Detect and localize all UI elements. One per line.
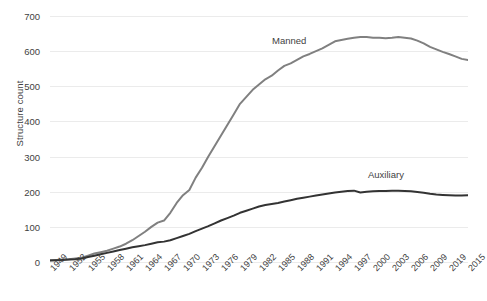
x-tick-label: 1958: [105, 252, 126, 273]
x-tick-label: 1985: [276, 252, 297, 273]
x-tick-label: 1955: [86, 252, 107, 273]
x-tick-label: 1997: [352, 252, 373, 273]
x-tick-label: 1967: [162, 252, 183, 273]
x-tick-label: 2009: [428, 252, 449, 273]
x-tick-label: 1994: [333, 252, 354, 273]
x-tick-label: 2015: [466, 252, 487, 273]
series-label-manned: Manned: [272, 35, 306, 46]
x-tick-label: 2019: [447, 252, 468, 273]
x-tick-label: 2006: [409, 252, 430, 273]
x-tick-label: 1961: [124, 252, 145, 273]
x-tick-label: 2003: [390, 252, 411, 273]
x-tick-label: 1982: [257, 252, 278, 273]
x-tick-label: 1976: [219, 252, 240, 273]
x-tick-label: 1988: [295, 252, 316, 273]
series-label-auxiliary: Auxiliary: [368, 169, 404, 180]
x-tick-label: 1991: [314, 252, 335, 273]
x-tick-label: 1949: [48, 252, 69, 273]
x-tick-label: 1952: [67, 252, 88, 273]
x-tick-label: 2000: [371, 252, 392, 273]
x-tick-label: 1964: [143, 252, 164, 273]
x-tick-label: 1973: [200, 252, 221, 273]
x-tick-label: 1979: [238, 252, 259, 273]
x-tick-label: 1970: [181, 252, 202, 273]
